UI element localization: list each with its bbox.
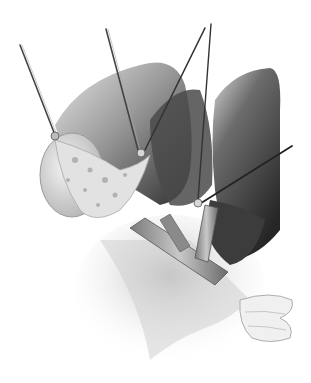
retractor-hand (240, 295, 293, 342)
illustration-canvas (0, 0, 311, 383)
instrument-1 (20, 45, 55, 135)
surgical-illustration: grayscale surgical illustration (0, 0, 311, 383)
